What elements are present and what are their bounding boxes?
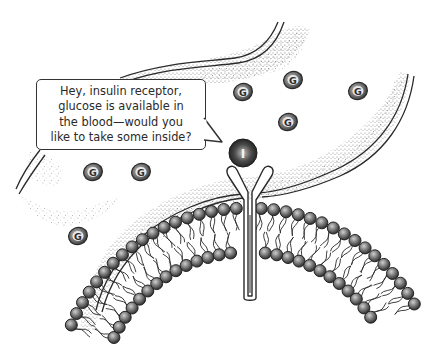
glucose-molecule: G: [281, 69, 305, 91]
phospholipid-head: [230, 202, 242, 214]
phospholipid-head: [99, 266, 111, 278]
glucose-label: G: [289, 75, 297, 86]
phospholipid-head: [136, 234, 148, 246]
phospholipid-head: [193, 208, 205, 220]
phospholipid-head: [387, 268, 399, 280]
phospholipid-head: [213, 249, 225, 261]
phospholipid-head: [116, 249, 128, 261]
phospholipid-head: [206, 206, 218, 218]
phospholipid-head: [359, 242, 371, 254]
phospholipid-head: [218, 204, 230, 216]
glucose-label: G: [137, 167, 145, 178]
phospholipid-head: [126, 241, 138, 253]
glucose-molecule: G: [231, 81, 255, 103]
phospholipid-head: [280, 206, 292, 218]
insulin-receptor-diagram: I GGGGGGG: [0, 0, 424, 360]
phospholipid-head: [147, 227, 159, 239]
phospholipid-head: [349, 235, 361, 247]
phospholipid-head: [268, 204, 280, 216]
speech-bubble: Hey, insulin receptor, glucose is availa…: [36, 79, 206, 150]
phospholipid-head: [293, 255, 305, 267]
speech-bubble-text: Hey, insulin receptor, glucose is availa…: [51, 84, 192, 146]
phospholipid-head: [271, 249, 283, 261]
glucose-molecule: G: [66, 225, 90, 247]
phospholipid-head: [255, 203, 267, 215]
phospholipid-head: [369, 250, 381, 262]
phospholipid-head: [378, 258, 390, 270]
glucose-molecule: G: [276, 111, 300, 133]
phospholipid-head: [327, 222, 339, 234]
stipple-upper: [118, 26, 310, 86]
phospholipid-head: [181, 212, 193, 224]
phospholipid-head: [158, 221, 170, 233]
insulin-label: I: [241, 147, 245, 161]
glucose-molecule: G: [129, 161, 153, 183]
phospholipid-head: [180, 260, 192, 272]
glucose-label: G: [284, 117, 292, 128]
phospholipid-head: [170, 216, 182, 228]
phospholipid-head: [83, 286, 95, 298]
phospholipid-head: [365, 311, 377, 323]
phospholipid-head: [191, 255, 203, 267]
phospholipid-head: [292, 209, 304, 221]
phospholipid-head: [107, 257, 119, 269]
phospholipid-head: [202, 252, 214, 264]
phospholipid-head: [282, 252, 294, 264]
phospholipid-head: [259, 247, 271, 259]
phospholipid-head: [408, 298, 420, 310]
phospholipid-head: [394, 277, 406, 289]
phospholipid-head: [316, 217, 328, 229]
glucose-molecule: G: [346, 80, 370, 102]
insulin-molecule: I: [229, 139, 257, 167]
phospholipid-head: [65, 319, 77, 331]
phospholipid-head: [338, 228, 350, 240]
phospholipid-head: [402, 287, 414, 299]
phospholipid-head: [304, 212, 316, 224]
glucose-label: G: [89, 167, 97, 178]
glucose-label: G: [74, 231, 82, 242]
phospholipid-head: [225, 247, 237, 259]
phospholipid-head: [71, 308, 83, 320]
glucose-label: G: [354, 86, 362, 97]
phospholipid-head: [91, 276, 103, 288]
phospholipid-head: [77, 297, 89, 309]
glucose-label: G: [239, 87, 247, 98]
glucose-molecule: G: [81, 161, 105, 183]
